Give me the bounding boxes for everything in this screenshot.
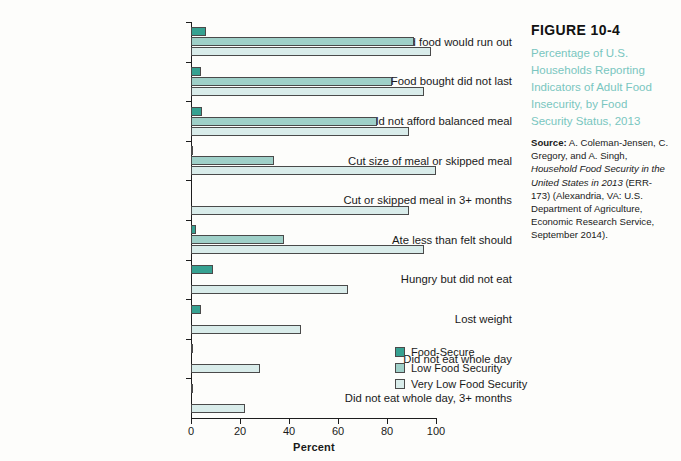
bar: [191, 47, 431, 56]
y-tick: [186, 62, 191, 63]
bar: [191, 37, 414, 46]
figure-number: FIGURE 10-4: [531, 22, 671, 38]
x-tick-label-20: 20: [234, 425, 246, 437]
legend-item-low-food-security[interactable]: Low Food Security: [395, 361, 527, 374]
x-tick-label-60: 60: [332, 425, 344, 437]
y-axis-label: Could not afford balanced meal: [355, 115, 512, 127]
bar: [191, 364, 260, 373]
legend-label-very-low-food-security: Very Low Food Security: [411, 378, 527, 390]
source-lead: Source:: [531, 137, 567, 148]
legend-item-very-low-food-security[interactable]: Very Low Food Security: [395, 377, 527, 390]
x-tick-label-80: 80: [381, 425, 393, 437]
x-tick-80: [387, 419, 388, 424]
bar: [191, 225, 196, 234]
figure-title: Percentage of U.S. Households Reporting …: [531, 45, 671, 130]
x-tick-0: [191, 419, 192, 424]
bar: [191, 325, 301, 334]
legend-swatch-food-secure: [395, 347, 405, 357]
legend-swatch-low-food-security: [395, 363, 405, 373]
x-tick-label-0: 0: [188, 425, 194, 437]
bar: [191, 245, 424, 254]
y-axis-label: Food bought did not last: [391, 75, 512, 87]
y-tick: [186, 260, 191, 261]
bar: [191, 107, 202, 116]
bar: [191, 67, 201, 76]
bar: [191, 127, 409, 136]
y-tick: [186, 141, 191, 142]
bar: [191, 265, 213, 274]
bar: [191, 156, 274, 165]
legend-item-food-secure[interactable]: Food-Secure: [395, 345, 527, 358]
x-tick-60: [338, 419, 339, 424]
y-axis-label: Cut size of meal or skipped meal: [348, 155, 512, 167]
x-axis-line: [191, 418, 437, 419]
chart-legend: Food-Secure Low Food Security Very Low F…: [395, 345, 527, 393]
legend-swatch-very-low-food-security: [395, 379, 405, 389]
y-axis-label: Cut or skipped meal in 3+ months: [343, 194, 512, 206]
bar: [191, 285, 348, 294]
y-tick: [186, 22, 191, 23]
y-axis-label: Lost weight: [455, 313, 512, 325]
bar: [191, 305, 201, 314]
y-tick: [186, 220, 191, 221]
x-tick-label-100: 100: [427, 425, 445, 437]
y-axis-label: Hungry but did not eat: [401, 273, 512, 285]
y-axis-label: Ate less than felt should: [392, 234, 512, 246]
bar: [191, 146, 193, 155]
bar: [191, 235, 284, 244]
bar: [191, 77, 392, 86]
legend-label-low-food-security: Low Food Security: [411, 362, 502, 374]
figure-10-4: 020406080100 Worried food would run outF…: [0, 0, 681, 461]
bar: [191, 344, 193, 353]
y-tick: [186, 378, 191, 379]
legend-label-food-secure: Food-Secure: [411, 346, 475, 358]
figure-source: Source: A. Coleman-Jensen, C. Gregory, a…: [531, 136, 671, 242]
x-tick-label-40: 40: [283, 425, 295, 437]
x-tick-20: [240, 419, 241, 424]
y-tick: [186, 180, 191, 181]
y-tick: [186, 101, 191, 102]
x-tick-100: [436, 419, 437, 424]
bar: [191, 117, 377, 126]
y-tick: [186, 339, 191, 340]
bar: [191, 87, 424, 96]
bar: [191, 166, 436, 175]
bar: [191, 384, 193, 393]
x-axis-title: Percent: [191, 441, 437, 453]
bar: [191, 27, 206, 36]
bar: [191, 404, 245, 413]
y-axis-label: Did not eat whole day, 3+ months: [345, 392, 512, 404]
chart-area: 020406080100 Worried food would run outF…: [0, 0, 520, 461]
x-tick-40: [289, 419, 290, 424]
caption-panel: FIGURE 10-4 Percentage of U.S. Household…: [531, 22, 671, 242]
y-tick: [186, 299, 191, 300]
bar: [191, 206, 409, 215]
